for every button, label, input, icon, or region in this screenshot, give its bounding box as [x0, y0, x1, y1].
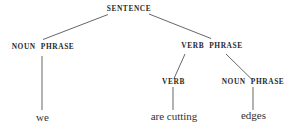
- node-noun-phrase-object-label-a: NOUN: [222, 77, 246, 86]
- edge-verb-phrase-verb: [174, 54, 185, 79]
- leaf-are-cutting: are cutting: [151, 111, 198, 122]
- edge-verb-phrase-noun-phrase: [226, 54, 252, 80]
- node-sentence-label: SENTENCE: [107, 4, 152, 13]
- node-verb-phrase-label-a: VERB: [181, 41, 204, 50]
- node-noun-phrase-subject-label-b: PHRASE: [41, 42, 75, 51]
- leaf-we-text: we: [36, 111, 49, 123]
- leaf-are-cutting-text: are cutting: [151, 110, 198, 122]
- leaf-edges: edges: [241, 110, 266, 121]
- node-noun-phrase-subject: NOUNPHRASE: [12, 43, 75, 50]
- node-verb-phrase: VERBPHRASE: [181, 42, 243, 49]
- leaf-we: we: [36, 112, 49, 123]
- node-noun-phrase-object-label-b: PHRASE: [251, 77, 285, 86]
- node-sentence: SENTENCE: [107, 5, 152, 12]
- edge-sentence-noun-phrase: [43, 15, 108, 40]
- node-verb-label: VERB: [162, 77, 185, 86]
- node-verb-phrase-label-b: PHRASE: [209, 41, 243, 50]
- node-noun-phrase-object: NOUNPHRASE: [222, 78, 285, 85]
- edge-sentence-verb-phrase: [149, 14, 211, 39]
- leaf-edges-text: edges: [241, 109, 266, 121]
- node-noun-phrase-subject-label-a: NOUN: [12, 42, 36, 51]
- node-verb: VERB: [162, 78, 185, 85]
